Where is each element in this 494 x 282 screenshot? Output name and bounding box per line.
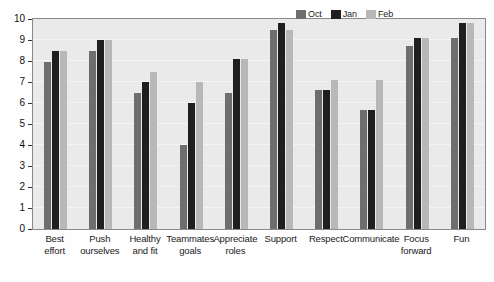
legend-label: Feb xyxy=(378,10,393,19)
y-axis: 012345678910 xyxy=(0,18,32,230)
bar-feb xyxy=(105,40,112,229)
bar-jan xyxy=(368,110,375,229)
legend-entry-oct: Oct xyxy=(296,10,322,19)
bar-feb xyxy=(422,38,429,229)
bar-oct xyxy=(406,46,413,229)
bar-jan xyxy=(414,38,421,229)
plot-area xyxy=(32,18,486,230)
bar-group xyxy=(440,19,485,229)
bar-group xyxy=(259,19,304,229)
y-axis-tick-label: 8 xyxy=(19,56,28,66)
legend-swatch-jan xyxy=(331,10,341,19)
bar-oct xyxy=(44,62,51,229)
bar-jan xyxy=(278,23,285,229)
x-axis-label: Fun xyxy=(424,233,494,245)
bar-jan xyxy=(97,40,104,229)
bar-jan xyxy=(52,51,59,230)
y-axis-tick-label: 1 xyxy=(19,203,28,213)
bar-jan xyxy=(188,103,195,229)
y-axis-tick-label: 9 xyxy=(19,35,28,45)
y-axis-tick-label: 10 xyxy=(14,14,28,24)
y-axis-tick-label: 3 xyxy=(19,161,28,171)
bar-chart: OctJanFeb 012345678910 BesteffortPushour… xyxy=(0,0,494,282)
bar-group xyxy=(304,19,349,229)
y-axis-tick-label: 6 xyxy=(19,98,28,108)
legend-entry-jan: Jan xyxy=(331,10,357,19)
bar-oct xyxy=(451,38,458,229)
bar-feb xyxy=(196,82,203,229)
bar-feb xyxy=(150,72,157,230)
bar-feb xyxy=(376,80,383,229)
y-axis-tick-label: 2 xyxy=(19,182,28,192)
bar-oct xyxy=(315,90,322,229)
bar-feb xyxy=(60,51,67,230)
y-axis-tick-label: 7 xyxy=(19,77,28,87)
bar-oct xyxy=(180,145,187,229)
bar-jan xyxy=(323,90,330,229)
bar-jan xyxy=(459,23,466,229)
bar-jan xyxy=(233,59,240,229)
bar-group xyxy=(349,19,394,229)
bar-oct xyxy=(360,110,367,229)
legend-entry-feb: Feb xyxy=(366,10,393,19)
bar-feb xyxy=(286,30,293,230)
x-axis-label-line: forward xyxy=(379,245,453,257)
x-axis-labels: BesteffortPushourselvesHealthyand fitTea… xyxy=(32,233,486,281)
bar-group xyxy=(123,19,168,229)
bar-oct xyxy=(225,93,232,230)
bar-group xyxy=(395,19,440,229)
bar-oct xyxy=(134,93,141,230)
x-axis-label-line: roles xyxy=(198,245,272,257)
y-axis-tick-label: 5 xyxy=(19,119,28,129)
chart-legend: OctJanFeb xyxy=(296,10,393,19)
legend-swatch-feb xyxy=(366,10,376,19)
bar-oct xyxy=(89,51,96,230)
legend-label: Jan xyxy=(343,10,357,19)
bar-group xyxy=(33,19,78,229)
bar-group xyxy=(169,19,214,229)
bar-feb xyxy=(467,23,474,229)
bar-group xyxy=(214,19,259,229)
legend-label: Oct xyxy=(308,10,322,19)
legend-swatch-oct xyxy=(296,10,306,19)
bar-jan xyxy=(142,82,149,229)
bar-oct xyxy=(270,30,277,230)
bar-feb xyxy=(331,80,338,229)
bars-layer xyxy=(33,19,485,229)
y-axis-tick-label: 4 xyxy=(19,140,28,150)
x-axis-label-line: Fun xyxy=(424,233,494,245)
bar-feb xyxy=(241,59,248,229)
bar-group xyxy=(78,19,123,229)
